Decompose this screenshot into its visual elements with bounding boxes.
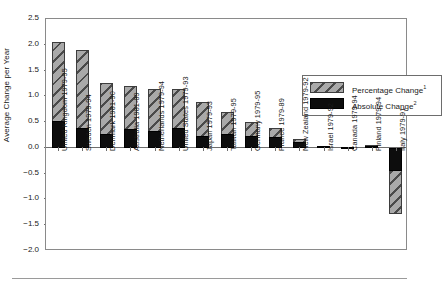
x-tick	[299, 147, 300, 151]
y-tick-label: 2.5	[28, 13, 39, 22]
x-axis-label: Australia 1981-89	[132, 92, 141, 151]
y-tick-label: −1.0	[23, 193, 39, 202]
x-tick	[275, 147, 276, 151]
x-tick	[251, 147, 252, 151]
x-axis-label: Sweden 1979-94	[84, 94, 93, 151]
x-axis-label: Israel 1979-92	[326, 103, 335, 151]
x-tick	[106, 147, 107, 151]
x-tick	[203, 147, 204, 151]
bottom-rule	[12, 278, 407, 279]
y-tick: −1.5	[0, 224, 45, 234]
x-axis-label: France 1979-89	[277, 98, 286, 151]
x-tick	[348, 147, 349, 151]
x-tick	[155, 147, 156, 151]
x-axis-label: United States 1979-93	[181, 76, 190, 151]
x-tick	[372, 147, 373, 151]
y-tick-label: 1.0	[28, 90, 39, 99]
y-tick: 0.5	[0, 121, 45, 131]
y-tick-label: −0.5	[23, 168, 39, 177]
x-tick	[324, 147, 325, 151]
x-axis-label: United Kingdom 1979-95	[60, 68, 69, 151]
y-tick-label: 0.5	[28, 116, 39, 125]
x-axis-label: Netherlands 1979-94	[157, 81, 166, 151]
x-axis-label: Germany 1979-95	[253, 91, 262, 151]
x-axis-label: Japan 1979-93	[205, 101, 214, 151]
x-axis-label: Italy 1979-91	[398, 107, 407, 150]
y-tick: −1.0	[0, 198, 45, 208]
x-axis-label: Canada 1979-94	[350, 95, 359, 151]
y-tick: 1.5	[0, 70, 45, 80]
y-tick-label: 1.5	[28, 65, 39, 74]
legend-label-percentage-change: Percentage Change1	[352, 82, 426, 96]
y-tick-label: 0.0	[28, 142, 39, 151]
y-tick: 0.0	[0, 147, 45, 157]
x-tick	[130, 147, 131, 151]
y-tick-label: −1.5	[23, 219, 39, 228]
x-axis-label: Taiwan 1979-95	[229, 98, 238, 151]
legend-swatch-percentage-change	[310, 82, 344, 93]
y-tick: −2.0	[0, 250, 45, 260]
chart-legend: Percentage Change1 Absolute Change2	[302, 75, 442, 116]
y-tick: 1.0	[0, 95, 45, 105]
y-tick: −0.5	[0, 173, 45, 183]
x-tick	[396, 147, 397, 151]
x-axis-label: Denmark 1981-90	[108, 91, 117, 151]
x-tick	[179, 147, 180, 151]
x-tick	[82, 147, 83, 151]
x-tick	[58, 147, 59, 151]
x-axis-label: New Zealand 1979-92	[301, 77, 310, 151]
y-tick: 2.5	[0, 18, 45, 28]
bar-absolute-change	[389, 148, 402, 171]
x-axis-label: Finland 1979-94	[374, 97, 383, 151]
y-tick-label: −2.0	[23, 245, 39, 254]
x-tick	[227, 147, 228, 151]
y-tick-label: 2.0	[28, 39, 39, 48]
y-tick: 2.0	[0, 44, 45, 54]
